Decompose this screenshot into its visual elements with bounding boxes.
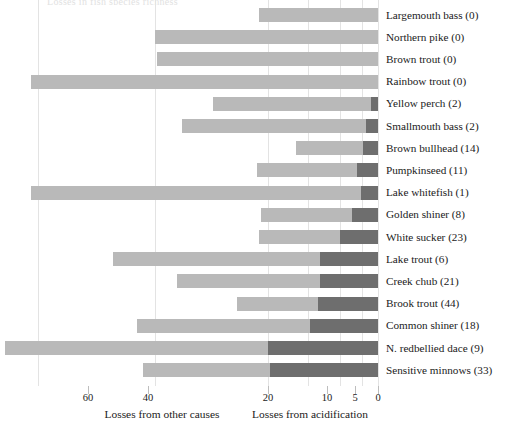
- bar-segment-other-causes: [237, 297, 318, 311]
- bar-segment-acidification: [340, 230, 378, 244]
- x-axis: 6040201050Losses from other causesLosses…: [0, 386, 380, 428]
- bar-segment-acidification: [366, 119, 378, 133]
- bar-segment-acidification: [363, 141, 378, 155]
- bar-segment-other-causes: [5, 341, 268, 355]
- bar-segment-other-causes: [31, 75, 378, 89]
- category-label: Rainbow trout (0): [386, 74, 466, 88]
- bar-segment-other-causes: [143, 363, 270, 377]
- bar-segment-acidification: [352, 208, 378, 222]
- bar-segment-other-causes: [155, 30, 378, 44]
- bar-row: [0, 52, 380, 66]
- category-label: Brown bullhead (14): [386, 141, 479, 155]
- bar-row: [0, 319, 380, 333]
- category-label: Lake trout (6): [386, 252, 448, 266]
- bar-segment-acidification: [318, 297, 378, 311]
- axis-tick-label: 20: [263, 392, 274, 403]
- plot-area: [0, 0, 380, 386]
- bar-row: [0, 230, 380, 244]
- bar-segment-acidification: [357, 163, 378, 177]
- category-label: Brook trout (44): [386, 296, 459, 310]
- bar-row: [0, 75, 380, 89]
- bar-segment-acidification: [268, 341, 378, 355]
- bar-segment-acidification: [320, 274, 378, 288]
- bar-row: [0, 341, 380, 355]
- bar-segment-other-causes: [157, 52, 378, 66]
- bar-segment-acidification: [361, 186, 378, 200]
- category-label: Sensitive minnows (33): [386, 363, 492, 377]
- bar-segment-other-causes: [137, 319, 310, 333]
- axis-tick-label: 0: [375, 392, 380, 403]
- bar-row: [0, 274, 380, 288]
- bar-segment-other-causes: [257, 163, 357, 177]
- bar-segment-other-causes: [213, 97, 371, 111]
- bar-row: [0, 97, 380, 111]
- bar-segment-acidification: [310, 319, 378, 333]
- category-label: Yellow perch (2): [386, 96, 461, 110]
- bar-row: [0, 141, 380, 155]
- bar-row: [0, 30, 380, 44]
- category-label: N. redbellied dace (9): [386, 341, 484, 355]
- category-label: Lake whitefish (1): [386, 185, 469, 199]
- category-label-list: Largemouth bass (0)Northern pike (0)Brow…: [386, 0, 515, 386]
- category-label: Brown trout (0): [386, 52, 456, 66]
- category-label: Northern pike (0): [386, 30, 464, 44]
- bar-row: [0, 297, 380, 311]
- axis-caption: Losses from acidification: [252, 408, 368, 420]
- bar-row: [0, 119, 380, 133]
- bar-row: [0, 208, 380, 222]
- bar-segment-acidification: [270, 363, 378, 377]
- bar-segment-other-causes: [296, 141, 363, 155]
- category-label: Creek chub (21): [386, 274, 459, 288]
- bar-segment-other-causes: [261, 208, 352, 222]
- bar-row: [0, 163, 380, 177]
- bar-row: [0, 252, 380, 266]
- axis-tick-label: 10: [322, 392, 333, 403]
- bar-segment-other-causes: [31, 186, 361, 200]
- bar-row: [0, 8, 380, 22]
- bar-segment-acidification: [320, 252, 378, 266]
- bar-segment-other-causes: [113, 252, 320, 266]
- bar-row: [0, 363, 380, 377]
- category-label: Largemouth bass (0): [386, 8, 478, 22]
- fish-species-loss-chart: Losses in fish species richness Largemou…: [0, 0, 515, 428]
- category-label: White sucker (23): [386, 230, 467, 244]
- bar-segment-other-causes: [182, 119, 366, 133]
- bar-segment-other-causes: [259, 8, 378, 22]
- category-label: Pumpkinseed (11): [386, 163, 467, 177]
- axis-tick-label: 60: [83, 392, 94, 403]
- axis-tick-label: 40: [143, 392, 154, 403]
- bar-segment-other-causes: [177, 274, 320, 288]
- bar-segment-acidification: [371, 97, 378, 111]
- category-label: Common shiner (18): [386, 318, 479, 332]
- category-label: Golden shiner (8): [386, 207, 465, 221]
- axis-tick-label: 5: [352, 392, 357, 403]
- bar-segment-other-causes: [259, 230, 340, 244]
- category-label: Smallmouth bass (2): [386, 119, 479, 133]
- bar-row: [0, 186, 380, 200]
- axis-caption: Losses from other causes: [105, 408, 220, 420]
